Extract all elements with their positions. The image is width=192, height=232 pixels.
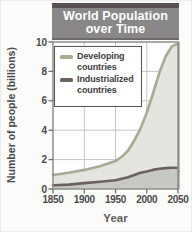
y-tick-label: 8 [27,66,47,77]
y-tick-label: 0 [27,184,47,195]
chart-legend: Developing countries Industrialized coun… [54,46,142,107]
legend-item-industrialized: Industrialized countries [60,74,139,95]
x-tick-label: 1950 [101,194,131,205]
legend-item-developing: Developing countries [60,51,139,72]
chart-title-line2: over Time [52,23,179,37]
y-tick-label: 6 [27,95,47,106]
y-axis-title: Number of people (billions) [5,47,17,183]
chart-title-bar: World Population over Time [52,3,179,40]
chart-title-line1: World Population [52,10,179,24]
x-tick-label: 1900 [69,194,99,205]
y-tick-label: 4 [27,125,47,136]
world-population-figure: World Population over Time Number of peo… [0,0,192,232]
x-tick-label: 1850 [38,194,68,205]
industrialized-countries-swatch-icon [60,78,73,82]
y-tick-label: 10 [27,37,47,48]
legend-label-industrialized: Industrialized countries [77,74,139,95]
x-tick-label: 2050 [163,194,192,205]
y-tick-label: 2 [27,154,47,165]
legend-label-developing: Developing countries [77,51,139,72]
developing-countries-swatch-icon [60,55,73,59]
x-tick-label: 2000 [132,194,162,205]
x-axis-title: Year [53,212,178,224]
